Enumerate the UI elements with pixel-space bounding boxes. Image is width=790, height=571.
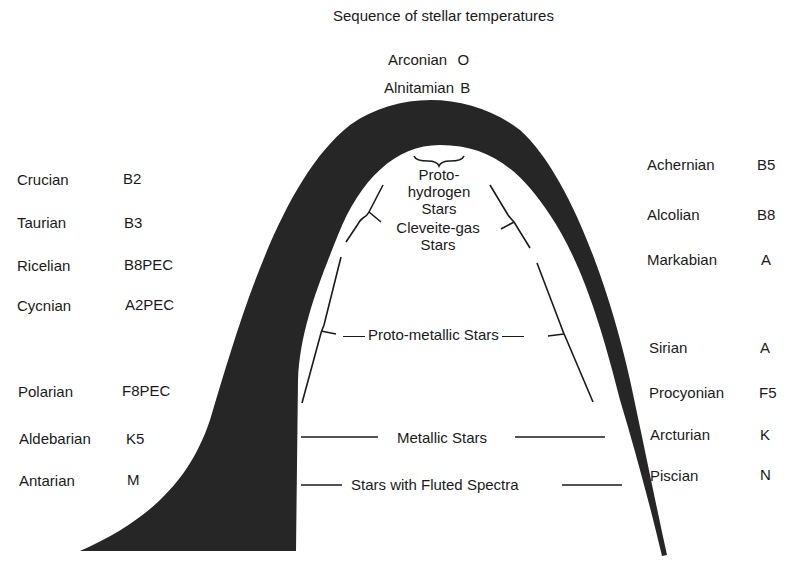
label-fluted-spectra: Stars with Fluted Spectra: [351, 477, 519, 492]
star-name: Arconian: [388, 51, 447, 68]
list-item: Aldebarian: [19, 431, 91, 446]
star-name: Alnitamian: [384, 79, 454, 96]
list-item-class: N: [760, 467, 771, 482]
list-item: Taurian: [17, 215, 66, 230]
list-item-class: A: [761, 252, 771, 267]
spectral-class: O: [457, 51, 469, 68]
list-item: Markabian: [647, 252, 717, 267]
apex-label-arconian: Arconian O: [388, 52, 469, 67]
list-item: Alcolian: [647, 207, 700, 222]
list-item-class: B5: [757, 157, 775, 172]
list-item: Sirian: [649, 340, 687, 355]
list-item: Antarian: [19, 473, 75, 488]
label-proto-hydrogen: Proto- hydrogen Stars: [404, 166, 474, 217]
apex-label-alnitamian: Alnitamian B: [384, 80, 470, 95]
list-item-class: B8: [757, 207, 775, 222]
list-item: Crucian: [17, 172, 69, 187]
label-proto-metallic: Proto-metallic Stars: [343, 327, 524, 342]
list-item-class: B8PEC: [124, 257, 173, 272]
list-item-class: B3: [124, 215, 142, 230]
list-item: Piscian: [650, 468, 698, 483]
list-item: Arcturian: [650, 427, 710, 442]
list-item-class: K5: [126, 431, 144, 446]
spectral-class: B: [460, 79, 470, 96]
list-item-class: B2: [123, 171, 141, 186]
list-item-class: F5: [759, 385, 777, 400]
list-item: Polarian: [18, 384, 73, 399]
list-item-class: F8PEC: [122, 383, 170, 398]
list-item-class: A: [760, 340, 770, 355]
list-item-class: M: [127, 472, 140, 487]
list-item-class: K: [760, 427, 770, 442]
diagram-title: Sequence of stellar temperatures: [333, 8, 554, 23]
list-item: Ricelian: [17, 258, 70, 273]
label-metallic: Metallic Stars: [397, 430, 487, 445]
list-item: Cycnian: [17, 298, 71, 313]
list-item: Achernian: [647, 157, 715, 172]
list-item: Procyonian: [649, 385, 724, 400]
label-cleveite-gas: Cleveite-gas Stars: [380, 219, 496, 253]
list-item-class: A2PEC: [125, 297, 174, 312]
